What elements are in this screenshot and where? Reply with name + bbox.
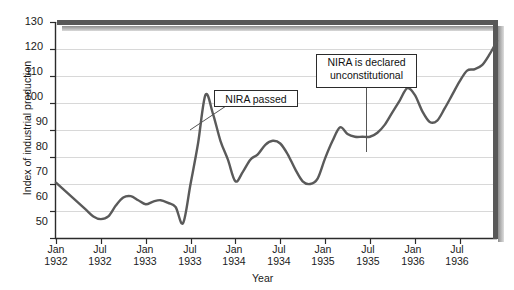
data-series-line — [56, 41, 497, 224]
frame-right-shadow — [498, 26, 504, 242]
frame-top-bar — [57, 20, 498, 25]
annotation-nira-passed: NIRA passed — [214, 90, 298, 107]
frame-right-bar — [493, 20, 498, 239]
annotation-nira-unconstitutional: NIRA is declared unconstitutional — [316, 54, 417, 88]
annotation-leader-nira-passed — [190, 106, 226, 130]
gridlines — [56, 23, 495, 212]
frame-top-shadow — [62, 26, 502, 31]
chart-figure: Index of industrial production Year 50 6… — [0, 0, 514, 290]
plot-area — [0, 0, 514, 290]
